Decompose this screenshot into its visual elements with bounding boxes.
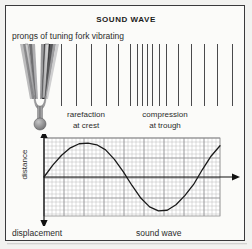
curve-label: sound wave <box>136 228 181 238</box>
rarefaction-label-line2: at crest <box>53 121 119 132</box>
wavefront-line <box>152 44 153 106</box>
wavefront-line <box>232 44 233 106</box>
diagram-panel: SOUND WAVE prongs of tuning fork vibrati… <box>5 5 245 241</box>
rarefaction-label: rarefaction at crest <box>53 110 119 131</box>
wavefront-line <box>178 44 179 106</box>
wavefront-line <box>159 44 160 106</box>
wavefront-line <box>137 44 138 106</box>
compression-label: compression at trough <box>130 110 200 131</box>
y-axis-arrow-up <box>40 134 47 138</box>
wavefront-line <box>217 44 218 106</box>
wavefront-line <box>118 44 119 106</box>
wavefront-line <box>142 44 143 106</box>
wavefront-line <box>91 44 92 106</box>
graph-canvas <box>12 134 240 226</box>
wavefront-line <box>76 44 77 106</box>
x-axis-arrow <box>232 173 240 180</box>
sound-wave-diagram: SOUND WAVE prongs of tuning fork vibrati… <box>0 0 252 249</box>
compression-label-line1: compression <box>130 110 200 121</box>
prongs-caption: prongs of tuning fork vibrating <box>12 31 124 41</box>
panel-shadow <box>7 243 247 245</box>
wavefront-line <box>204 44 205 106</box>
y-axis-label: distance <box>20 139 29 191</box>
wavefront-line <box>106 44 107 106</box>
wave-graph: distance <box>12 134 240 226</box>
compression-label-line2: at trough <box>130 121 200 132</box>
y-axis-arrow-down <box>40 220 47 226</box>
rarefaction-label-line1: rarefaction <box>53 110 119 121</box>
wavefront-line <box>191 44 192 106</box>
x-axis-label: displacement <box>12 228 62 238</box>
wavefront-line <box>147 44 148 106</box>
wavefront-line <box>130 44 131 106</box>
page-title: SOUND WAVE <box>6 15 246 24</box>
wavefront-line <box>166 44 167 106</box>
